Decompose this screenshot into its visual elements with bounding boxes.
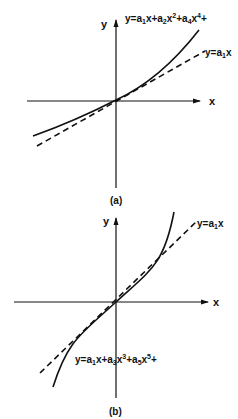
y-axis-label: y	[101, 18, 108, 30]
figure: y x y=a1x+a2x2+a4x4+ y=a1x (a) y x y=a1x…	[0, 0, 238, 419]
panel-b: y x y=a1x+a3x3+a5x5+ y=a1x (b)	[14, 212, 224, 417]
line-label: y=a1x	[197, 218, 224, 230]
panel-a: y x y=a1x+a2x2+a4x4+ y=a1x (a)	[27, 12, 232, 206]
x-axis-label: x	[209, 95, 216, 107]
caption-a: (a)	[110, 195, 122, 206]
curve-label: y=a1x+a2x2+a4x4+	[125, 12, 207, 25]
line-label: y=a1x	[205, 47, 232, 59]
caption-b: (b)	[109, 406, 122, 417]
y-axis-label: y	[103, 215, 110, 227]
line-dashed	[40, 222, 196, 373]
x-axis-label: x	[213, 296, 220, 308]
curve-label: y=a1x+a3x3+a5x5+	[75, 353, 157, 366]
